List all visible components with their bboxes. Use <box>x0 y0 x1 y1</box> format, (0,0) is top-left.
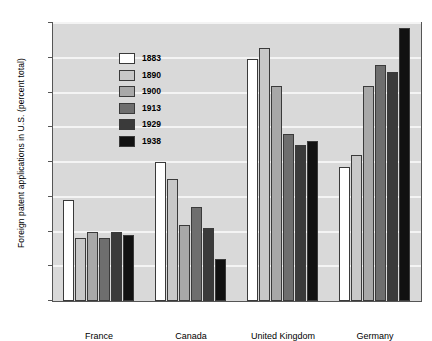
bar[interactable] <box>87 232 98 302</box>
bar[interactable] <box>63 200 74 301</box>
plot-area: FranceCanadaUnited KingdomGermany 188318… <box>52 22 422 302</box>
legend-swatch-icon <box>119 70 135 81</box>
bar[interactable] <box>247 59 258 301</box>
bar[interactable] <box>271 86 282 301</box>
bar[interactable] <box>111 232 122 302</box>
legend-swatch-icon <box>119 86 135 97</box>
x-axis-category-label: Canada <box>145 331 237 341</box>
legend: 188318901900191319291938 <box>119 53 161 147</box>
plot-inner: FranceCanadaUnited KingdomGermany <box>53 23 421 301</box>
bar-group-bars <box>155 23 227 301</box>
bar[interactable] <box>307 141 318 301</box>
bar-group <box>155 23 227 301</box>
bar[interactable] <box>179 225 190 301</box>
legend-item[interactable]: 1913 <box>119 103 161 114</box>
legend-item-label: 1900 <box>142 86 161 97</box>
bar[interactable] <box>203 228 214 301</box>
bar-group-bars <box>339 23 411 301</box>
legend-item-label: 1890 <box>142 70 161 81</box>
legend-swatch-icon <box>119 53 135 64</box>
legend-item-label: 1938 <box>142 136 161 147</box>
x-axis-category-label: United Kingdom <box>237 331 329 341</box>
bar-group <box>247 23 319 301</box>
x-axis-category-label: Germany <box>329 331 421 341</box>
legend-item[interactable]: 1900 <box>119 86 161 97</box>
bar-group <box>339 23 411 301</box>
legend-item[interactable]: 1938 <box>119 136 161 147</box>
bar[interactable] <box>123 235 134 301</box>
bar[interactable] <box>375 65 386 301</box>
bar[interactable] <box>99 238 110 301</box>
legend-item[interactable]: 1883 <box>119 53 161 64</box>
legend-item[interactable]: 1929 <box>119 119 161 130</box>
bar[interactable] <box>339 167 350 301</box>
bar[interactable] <box>387 72 398 301</box>
x-axis-category-label: France <box>53 331 145 341</box>
bar[interactable] <box>167 179 178 301</box>
legend-swatch-icon <box>119 119 135 130</box>
y-axis-title: Foreign patent applications in U.S. (per… <box>16 28 26 278</box>
bar[interactable] <box>295 145 306 301</box>
bar[interactable] <box>363 86 374 301</box>
bar[interactable] <box>215 259 226 301</box>
bar[interactable] <box>191 207 202 301</box>
legend-swatch-icon <box>119 103 135 114</box>
bar[interactable] <box>283 134 294 301</box>
legend-item-label: 1929 <box>142 119 161 130</box>
legend-item-label: 1913 <box>142 103 161 114</box>
legend-item-label: 1883 <box>142 53 161 64</box>
bar[interactable] <box>155 162 166 301</box>
legend-swatch-icon <box>119 136 135 147</box>
legend-item[interactable]: 1890 <box>119 70 161 81</box>
bar[interactable] <box>259 48 270 301</box>
bar[interactable] <box>75 238 86 301</box>
bar[interactable] <box>399 28 410 301</box>
bar[interactable] <box>351 155 362 301</box>
bar-group-bars <box>247 23 319 301</box>
